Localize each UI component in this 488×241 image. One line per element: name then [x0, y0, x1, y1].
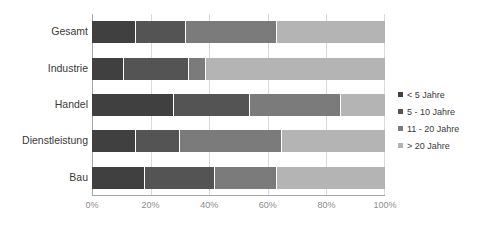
bar-segment — [92, 58, 124, 80]
legend-label: 5 - 10 Jahre — [407, 107, 455, 117]
bar-track — [92, 21, 385, 43]
y-axis-label-gesamt: Gesamt — [2, 25, 88, 37]
bar-segment — [186, 21, 277, 43]
bar-segment — [124, 58, 188, 80]
bar-row — [92, 130, 385, 152]
legend-label: > 20 Jahre — [407, 141, 450, 151]
bar-segment — [341, 94, 385, 116]
bar-segment — [174, 94, 250, 116]
legend-label: 11 - 20 Jahre — [407, 124, 459, 134]
legend-item[interactable]: < 5 Jahre — [398, 86, 486, 103]
x-axis-tick-20pct: 20% — [142, 200, 160, 210]
bar-row — [92, 58, 385, 80]
y-axis-label-bau: Bau — [2, 171, 88, 183]
bar-track — [92, 167, 385, 189]
x-axis-tick-100pct: 100% — [373, 200, 396, 210]
x-axis-tick-0pct: 0% — [85, 200, 98, 210]
y-axis-label-handel: Handel — [2, 98, 88, 110]
x-axis-tick-40pct: 40% — [200, 200, 218, 210]
bar-segment — [92, 21, 136, 43]
bar-segment — [189, 58, 207, 80]
bar-track — [92, 130, 385, 152]
legend-swatch-icon — [398, 143, 403, 148]
y-axis-label-dienstleistung: Dienstleistung — [2, 134, 88, 146]
x-axis-tick-60pct: 60% — [259, 200, 277, 210]
x-axis-tick-labels: 0%20%40%60%80%100% — [92, 200, 385, 216]
legend-label: < 5 Jahre — [407, 90, 445, 100]
bar-segment — [250, 94, 341, 116]
plot-area — [92, 14, 385, 196]
chart-screenshot: GesamtIndustrieHandelDienstleistungBau 0… — [0, 0, 488, 241]
bar-segment — [145, 167, 215, 189]
bar-segment — [92, 167, 145, 189]
legend-item[interactable]: 11 - 20 Jahre — [398, 120, 486, 137]
bar-row — [92, 167, 385, 189]
bar-segment — [206, 58, 385, 80]
legend-swatch-icon — [398, 109, 403, 114]
bar-segment — [277, 167, 385, 189]
x-axis-tick-80pct: 80% — [317, 200, 335, 210]
bar-track — [92, 94, 385, 116]
legend-swatch-icon — [398, 126, 403, 131]
stacked-bars — [92, 14, 385, 196]
legend: < 5 Jahre5 - 10 Jahre11 - 20 Jahre> 20 J… — [398, 86, 486, 154]
bar-segment — [136, 21, 186, 43]
bar-row — [92, 94, 385, 116]
bar-segment — [215, 167, 277, 189]
legend-item[interactable]: 5 - 10 Jahre — [398, 103, 486, 120]
y-axis-label-industrie: Industrie — [2, 62, 88, 74]
bar-segment — [180, 130, 283, 152]
bar-row — [92, 21, 385, 43]
bar-segment — [136, 130, 180, 152]
legend-swatch-icon — [398, 92, 403, 97]
legend-item[interactable]: > 20 Jahre — [398, 137, 486, 154]
bar-segment — [92, 94, 174, 116]
bar-segment — [282, 130, 385, 152]
bar-segment — [277, 21, 385, 43]
bar-track — [92, 58, 385, 80]
bar-segment — [92, 130, 136, 152]
y-axis-category-labels: GesamtIndustrieHandelDienstleistungBau — [0, 14, 88, 196]
